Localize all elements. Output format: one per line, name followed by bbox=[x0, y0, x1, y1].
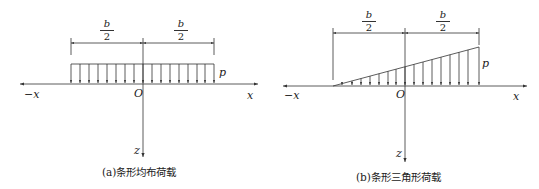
diagram-canvas bbox=[0, 0, 539, 189]
origin-label-a: O bbox=[134, 88, 143, 99]
caption-a: (a)条形均布荷载 bbox=[102, 167, 176, 178]
fraction-numerator: b bbox=[436, 10, 450, 22]
fraction-denominator: 2 bbox=[100, 31, 114, 42]
fraction-denominator: 2 bbox=[174, 31, 188, 42]
half-width-label-right-b: b 2 bbox=[436, 10, 450, 33]
triangular-load-top bbox=[333, 47, 479, 86]
strip-load-figure: b 2 b 2 p O −x x z (a)条形均布荷载 b 2 b 2 p O… bbox=[0, 0, 539, 189]
half-width-label-left-a: b 2 bbox=[100, 19, 114, 42]
z-label-b: z bbox=[396, 148, 402, 159]
fraction-numerator: b bbox=[100, 19, 114, 31]
neg-x-label-a: −x bbox=[24, 89, 39, 100]
fraction-numerator: b bbox=[362, 10, 376, 22]
pos-x-label-a: x bbox=[247, 90, 253, 101]
neg-x-label-b: −x bbox=[284, 90, 299, 101]
half-width-label-right-a: b 2 bbox=[174, 19, 188, 42]
caption-b: (b)条形三角形荷载 bbox=[356, 172, 441, 183]
fraction-denominator: 2 bbox=[436, 22, 450, 33]
fraction-denominator: 2 bbox=[362, 22, 376, 33]
fraction-numerator: b bbox=[174, 19, 188, 31]
half-width-label-left-b: b 2 bbox=[362, 10, 376, 33]
load-intensity-label-a: p bbox=[219, 67, 226, 78]
uniform-load-arrows bbox=[71, 64, 214, 83]
z-label-a: z bbox=[134, 145, 140, 156]
origin-label-b: O bbox=[396, 89, 405, 100]
pos-x-label-b: x bbox=[513, 91, 519, 102]
load-intensity-label-b: p bbox=[482, 58, 489, 69]
